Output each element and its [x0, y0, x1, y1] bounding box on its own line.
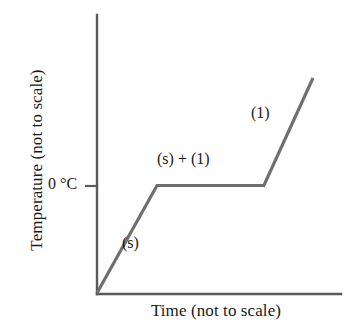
heating-curve-line [97, 78, 313, 293]
melting-phase-label: (s) + (1) [157, 150, 210, 168]
heating-curve-figure: Temperature (not to scale) Time (not to … [0, 0, 349, 326]
liquid-phase-label: (1) [251, 104, 270, 122]
solid-phase-label: (s) [122, 234, 139, 252]
x-axis-title: Time (not to scale) [96, 301, 336, 321]
y-axis-tick-label-0c: 0 °C [48, 175, 77, 193]
y-axis-title: Temperature (not to scale) [27, 30, 47, 290]
